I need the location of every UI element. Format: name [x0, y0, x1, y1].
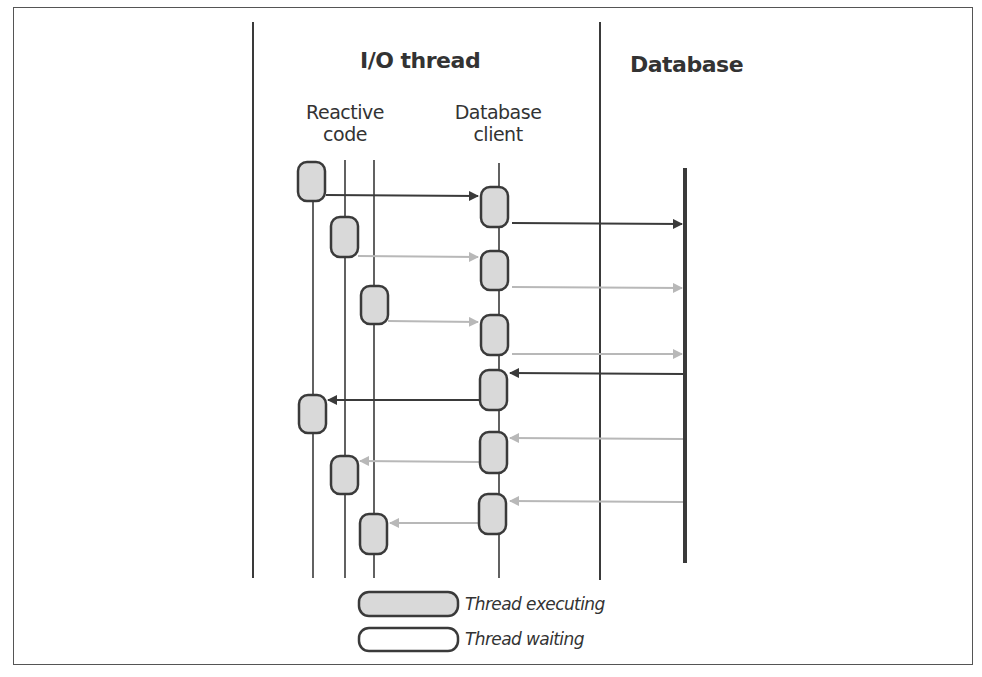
- arrow-db-response-3: [510, 501, 683, 502]
- reactive-1-exec-a: [298, 162, 325, 201]
- legend-waiting-swatch: [359, 628, 458, 651]
- database-client-label-line-1: Database: [448, 101, 548, 123]
- arrow-callback-2: [360, 461, 480, 462]
- db-client-exec-6: [479, 494, 506, 534]
- arrow-request-2: [358, 256, 478, 257]
- arrow-db-query-1: [512, 223, 682, 224]
- reactive-2-exec-a: [331, 217, 358, 257]
- legend-executing-label: Thread executing: [465, 594, 605, 614]
- legend-executing-swatch: [359, 592, 458, 616]
- reactive-3-exec-b: [360, 514, 387, 554]
- execution-boxes: [298, 162, 508, 554]
- arrow-request-3: [388, 321, 478, 322]
- db-client-exec-1: [481, 187, 508, 227]
- db-client-exec-4: [480, 370, 507, 410]
- arrow-db-query-2: [512, 287, 682, 288]
- arrow-db-response-2: [510, 438, 683, 439]
- reactive-3-exec-a: [361, 286, 388, 324]
- io-thread-heading: I/O thread: [360, 48, 470, 73]
- reactive-1-exec-b: [299, 395, 326, 433]
- arrows: [326, 195, 683, 523]
- reactive-2-exec-b: [331, 456, 358, 494]
- database-client-label-line-2: client: [448, 123, 548, 145]
- arrow-request-1: [326, 195, 478, 196]
- database-heading: Database: [630, 52, 740, 77]
- reactive-code-label: Reactive code: [300, 101, 390, 145]
- db-client-exec-3: [481, 315, 508, 355]
- reactive-code-label-line-1: Reactive: [300, 101, 390, 123]
- arrow-db-response-1: [510, 373, 683, 374]
- legend-waiting-label: Thread waiting: [465, 629, 584, 649]
- database-client-label: Database client: [448, 101, 548, 145]
- db-client-exec-2: [481, 251, 508, 290]
- reactive-code-label-line-2: code: [300, 123, 390, 145]
- db-client-exec-5: [480, 432, 507, 473]
